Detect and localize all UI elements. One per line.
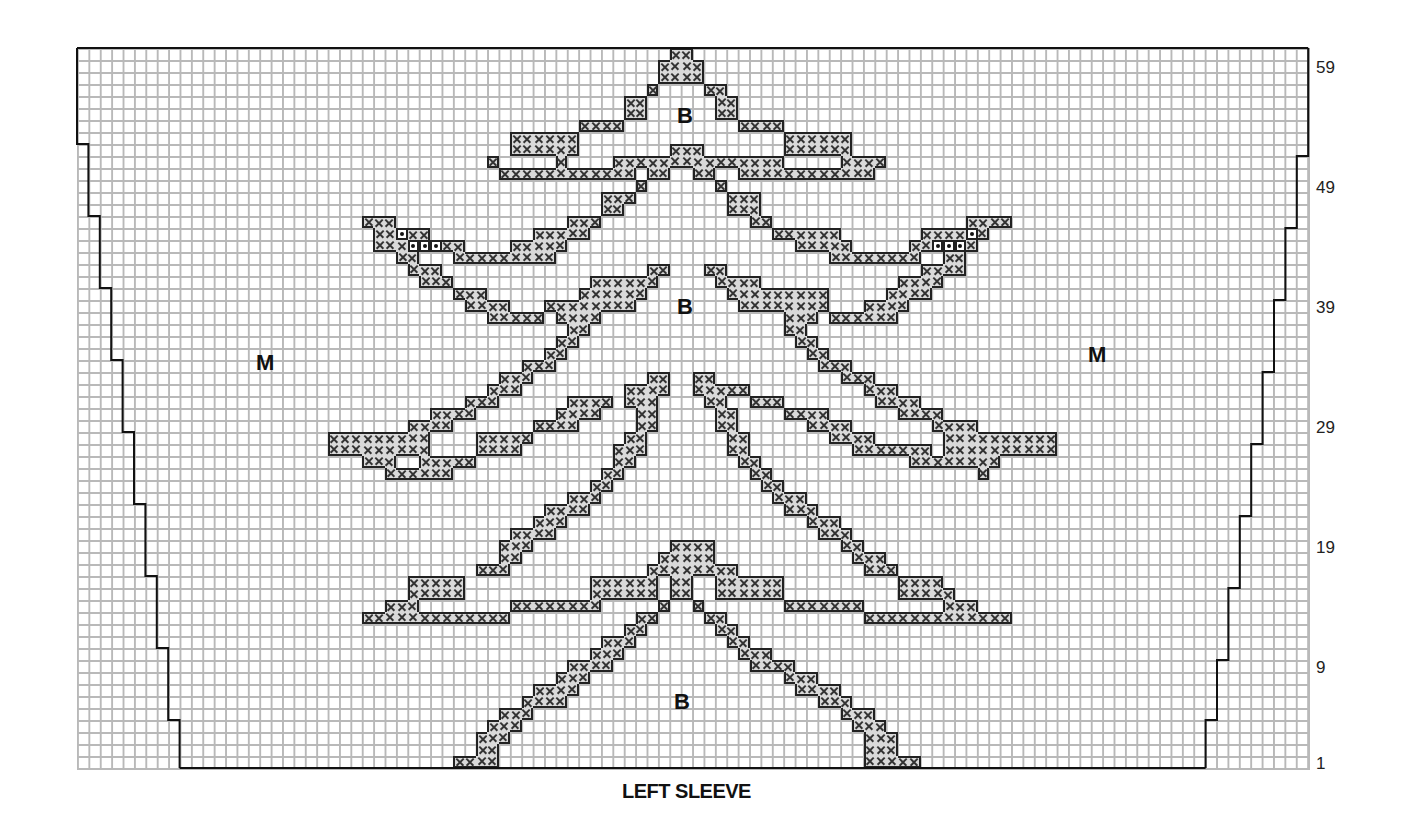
contrast-stitch-cell [601,468,612,480]
contrast-stitch-cell [510,168,521,180]
contrast-stitch-cell [795,300,806,312]
contrast-stitch-cell [932,612,943,624]
contrast-stitch-cell [670,540,681,552]
contrast-stitch-cell [487,564,498,576]
contrast-stitch-cell [522,696,533,708]
contrast-stitch-cell [499,300,510,312]
contrast-stitch-cell [898,612,909,624]
contrast-stitch-cell [499,312,510,324]
contrast-stitch-cell [886,756,897,768]
contrast-stitch-cell [567,504,578,516]
contrast-stitch-cell [943,228,954,240]
contrast-stitch-cell [533,696,544,708]
contrast-stitch-cell [567,300,578,312]
contrast-stitch-cell [875,732,886,744]
contrast-stitch-cell [704,372,715,384]
contrast-stitch-cell [852,252,863,264]
contrast-stitch-cell [533,240,544,252]
contrast-stitch-cell [601,588,612,600]
contrast-stitch-cell [818,144,829,156]
contrast-stitch-cell [556,144,567,156]
contrast-stitch-cell [499,252,510,264]
contrast-stitch-cell [601,396,612,408]
contrast-stitch-cell [408,420,419,432]
contrast-stitch-cell [818,240,829,252]
contrast-stitch-cell [693,168,704,180]
contrast-stitch-cell [693,384,704,396]
contrast-stitch-cell [750,396,761,408]
contrast-stitch-cell [647,384,658,396]
contrast-stitch-cell [807,348,818,360]
contrast-stitch-cell [408,252,419,264]
contrast-stitch-cell [613,288,624,300]
contrast-stitch-cell [636,384,647,396]
contrast-stitch-cell [875,252,886,264]
contrast-stitch-cell [750,276,761,288]
contrast-stitch-cell [829,312,840,324]
contrast-stitch-cell [487,744,498,756]
contrast-stitch-cell [522,360,533,372]
contrast-stitch-cell [932,420,943,432]
contrast-stitch-cell [465,252,476,264]
row-label-39: 39 [1316,298,1335,318]
contrast-stitch-cell [750,120,761,132]
contrast-stitch-cell [408,264,419,276]
contrast-stitch-cell [373,240,384,252]
contrast-stitch-cell [647,408,658,420]
contrast-stitch-cell [875,396,886,408]
contrast-stitch-cell [693,540,704,552]
contrast-stitch-cell [579,216,590,228]
contrast-stitch-cell [601,480,612,492]
contrast-stitch-cell [841,240,852,252]
contrast-stitch-cell [978,432,989,444]
contrast-stitch-cell [955,228,966,240]
contrast-stitch-cell [886,300,897,312]
contrast-stitch-cell [704,540,715,552]
contrast-stitch-cell [351,432,362,444]
contrast-stitch-cell [419,444,430,456]
contrast-stitch-cell [636,396,647,408]
contrast-stitch-cell [932,456,943,468]
contrast-stitch-cell [750,168,761,180]
contrast-stitch-cell [966,600,977,612]
contrast-stitch-cell [818,408,829,420]
contrast-stitch-cell [715,108,726,120]
contrast-stitch-cell [544,144,555,156]
contrast-stitch-cell [909,456,920,468]
contrast-stitch-cell [704,384,715,396]
contrast-stitch-cell [829,420,840,432]
dot-stitch-cell [932,240,943,252]
contrast-stitch-cell [829,696,840,708]
contrast-stitch-cell [909,756,920,768]
contrast-stitch-cell [807,600,818,612]
contrast-stitch-cell [579,672,590,684]
contrast-stitch-cell [624,300,635,312]
contrast-stitch-cell [362,456,373,468]
contrast-stitch-cell [579,168,590,180]
contrast-stitch-cell [898,576,909,588]
contrast-stitch-cell [579,600,590,612]
contrast-stitch-cell [818,168,829,180]
contrast-stitch-cell [556,504,567,516]
contrast-stitch-cell [510,252,521,264]
contrast-stitch-cell [978,456,989,468]
contrast-stitch-cell [715,156,726,168]
contrast-stitch-cell [658,384,669,396]
dot-stitch-cell [419,240,430,252]
contrast-stitch-cell [875,744,886,756]
contrast-stitch-cell [784,504,795,516]
contrast-stitch-cell [1035,432,1046,444]
contrast-stitch-cell [864,312,875,324]
contrast-stitch-cell [362,432,373,444]
contrast-stitch-cell [385,432,396,444]
contrast-stitch-cell [864,552,875,564]
contrast-stitch-cell [408,588,419,600]
contrast-stitch-cell [487,312,498,324]
contrast-stitch-cell [465,396,476,408]
contrast-stitch-cell [579,492,590,504]
contrast-stitch-cell [408,468,419,480]
contrast-stitch-cell [1000,444,1011,456]
contrast-stitch-cell [681,48,692,60]
contrast-stitch-cell [750,576,761,588]
contrast-stitch-cell [442,468,453,480]
